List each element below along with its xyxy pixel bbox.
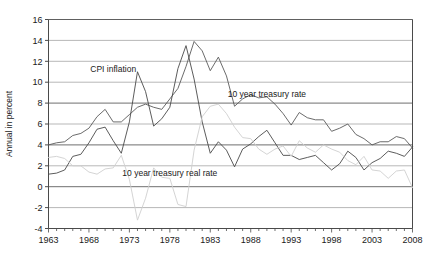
- chart-container: -4-20246810121416 1963196819731978198319…: [0, 0, 429, 256]
- series-annotation: CPI inflation: [90, 64, 136, 74]
- y-tick-label: 4: [37, 140, 42, 150]
- y-tick-label: 12: [32, 57, 42, 67]
- y-tick-label: 10: [32, 77, 42, 87]
- x-tick-label: 2008: [402, 235, 422, 245]
- series-annotation: 10 year treasury real rate: [122, 168, 217, 178]
- y-tick-label: 0: [37, 182, 42, 192]
- y-tick-label: 6: [37, 119, 42, 129]
- y-tick-label: 14: [32, 36, 42, 46]
- x-tick-label: 1998: [322, 235, 342, 245]
- x-tick-label: 1993: [281, 235, 301, 245]
- y-tick-label: -2: [34, 203, 42, 213]
- y-tick-label: 2: [37, 161, 42, 171]
- x-tick-labels: 1963196819731978198319881993199820032008: [38, 235, 422, 245]
- axis-ticks: [45, 20, 413, 233]
- y-axis-title-text: Annual in percent: [4, 90, 14, 157]
- y-tick-label: -4: [34, 224, 42, 234]
- x-tick-label: 2003: [362, 235, 382, 245]
- y-tick-label: 16: [32, 15, 42, 25]
- x-tick-label: 1973: [119, 235, 139, 245]
- y-tick-label: 8: [37, 98, 42, 108]
- series-annotation: 10 year treasury rate: [228, 89, 307, 99]
- y-tick-labels: -4-20246810121416: [32, 15, 42, 234]
- x-tick-label: 1988: [241, 235, 261, 245]
- line-chart: -4-20246810121416 1963196819731978198319…: [0, 0, 429, 256]
- x-tick-label: 1963: [38, 235, 58, 245]
- x-tick-label: 1983: [200, 235, 220, 245]
- series-line: [49, 104, 413, 220]
- x-tick-label: 1968: [79, 235, 99, 245]
- y-axis-title: Annual in percent: [4, 90, 14, 157]
- gridlines: [49, 20, 413, 229]
- x-tick-label: 1978: [160, 235, 180, 245]
